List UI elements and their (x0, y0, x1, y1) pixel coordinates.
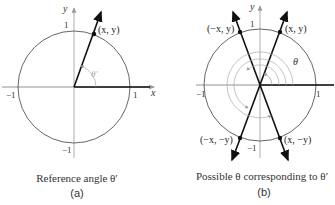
b-tick-1x: 1 (316, 89, 321, 99)
caption-a: Reference angle θ′ (22, 172, 132, 184)
point-q2 (238, 30, 242, 34)
point-q4 (278, 136, 282, 140)
a-tick-neg1y: −1 (62, 145, 72, 155)
a-tick-1y: 1 (64, 20, 69, 30)
panel-a-diagram (2, 8, 154, 158)
a-y-label: y (62, 3, 68, 14)
a-x-label: x (150, 87, 156, 98)
a-tick-1x: 1 (133, 90, 138, 100)
point-q3 (238, 136, 242, 140)
b-point-q2-label: (−x, y) (207, 23, 234, 35)
a-point-label: (x, y) (98, 24, 120, 36)
point-q1 (278, 30, 282, 34)
b-point-q3-label: (−x, −y) (200, 134, 233, 146)
theta-arc-1 (264, 74, 272, 85)
b-tick-neg1x: −1 (196, 89, 206, 99)
a-tick-neg1x: −1 (6, 90, 16, 100)
ray-q3-tip (232, 155, 234, 160)
a-angle-label: θ′ (91, 69, 98, 79)
b-point-q4-label: (x, −y) (284, 134, 311, 146)
label-b: (b) (249, 186, 279, 198)
caption-b: Possible θ corresponding to θ′ (192, 170, 332, 182)
b-point-q1-label: (x, y) (285, 23, 307, 35)
b-angle-label: θ (293, 56, 298, 67)
b-tick-neg1y: −1 (247, 143, 257, 153)
ray-q4-tip (286, 155, 288, 160)
point-xy (92, 32, 96, 36)
label-a: (a) (62, 187, 92, 199)
b-tick-1y: 1 (250, 19, 255, 29)
b-y-label: y (249, 1, 255, 12)
